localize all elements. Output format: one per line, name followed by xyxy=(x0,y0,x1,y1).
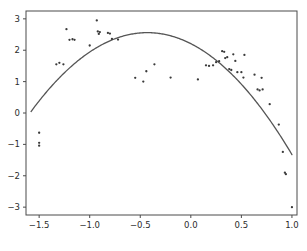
scatter-point xyxy=(260,77,262,79)
scatter-point xyxy=(261,88,263,90)
x-tick-label: −1.0 xyxy=(79,220,100,230)
scatter-point xyxy=(68,39,70,41)
scatter-point xyxy=(142,80,144,82)
scatter-point xyxy=(230,69,232,71)
scatter-point xyxy=(96,19,98,21)
y-tick-label: −1 xyxy=(7,139,20,149)
scatter-point xyxy=(205,64,207,66)
scatter-point xyxy=(109,32,111,34)
scatter-point xyxy=(169,76,171,78)
scatter-plot-canvas: 3210−1−2−3 −1.5−1.0−0.50.00.51.0 xyxy=(0,0,307,251)
scatter-point xyxy=(62,63,64,65)
scatter-point xyxy=(282,151,284,153)
x-tick-label: −1.5 xyxy=(29,220,50,230)
scatter-point xyxy=(58,62,60,64)
scatter-point xyxy=(218,60,220,62)
scatter-point xyxy=(117,38,119,40)
scatter-point xyxy=(215,61,217,63)
y-tick-label: −2 xyxy=(7,171,20,181)
scatter-point xyxy=(278,123,280,125)
scatter-point xyxy=(38,144,40,146)
scatter-point xyxy=(285,173,287,175)
scatter-point xyxy=(73,39,75,41)
scatter-point xyxy=(212,64,214,66)
chart-figure: 3210−1−2−3 −1.5−1.0−0.50.00.51.0 xyxy=(0,0,307,251)
scatter-point xyxy=(55,63,57,65)
scatter-point xyxy=(111,38,113,40)
y-tick-label: 1 xyxy=(15,77,20,87)
scatter-point xyxy=(228,68,230,70)
scatter-point xyxy=(291,206,293,208)
y-tick-label: 0 xyxy=(15,108,20,118)
scatter-point xyxy=(226,56,228,58)
y-tick-label: 3 xyxy=(15,14,20,24)
scatter-point xyxy=(240,71,242,73)
scatter-point xyxy=(145,70,147,72)
y-tick-label: −3 xyxy=(7,202,20,212)
scatter-point xyxy=(89,44,91,46)
scatter-point xyxy=(223,51,225,53)
scatter-point xyxy=(38,142,40,144)
x-tick-label: 0.0 xyxy=(184,220,198,230)
scatter-point xyxy=(65,28,67,30)
scatter-point xyxy=(224,57,226,59)
scatter-point xyxy=(234,60,236,62)
scatter-point xyxy=(208,65,210,67)
scatter-point xyxy=(253,74,255,76)
scatter-point xyxy=(269,103,271,105)
scatter-point xyxy=(71,38,73,40)
y-tick-label: 2 xyxy=(15,45,20,55)
scatter-point xyxy=(221,50,223,52)
scatter-point xyxy=(236,71,238,73)
x-tick-label: −0.5 xyxy=(130,220,151,230)
scatter-point xyxy=(99,31,101,33)
scatter-point xyxy=(153,63,155,65)
figure-background xyxy=(0,0,307,251)
x-tick-label: 0.5 xyxy=(235,220,249,230)
scatter-point xyxy=(243,54,245,56)
scatter-point xyxy=(97,30,99,32)
scatter-point xyxy=(258,89,260,91)
scatter-point xyxy=(134,77,136,79)
scatter-point xyxy=(197,78,199,80)
x-tick-label: 1.0 xyxy=(285,220,299,230)
scatter-point xyxy=(232,53,234,55)
scatter-point xyxy=(107,32,109,34)
scatter-point xyxy=(256,88,258,90)
scatter-point xyxy=(242,76,244,78)
scatter-point xyxy=(38,132,40,134)
